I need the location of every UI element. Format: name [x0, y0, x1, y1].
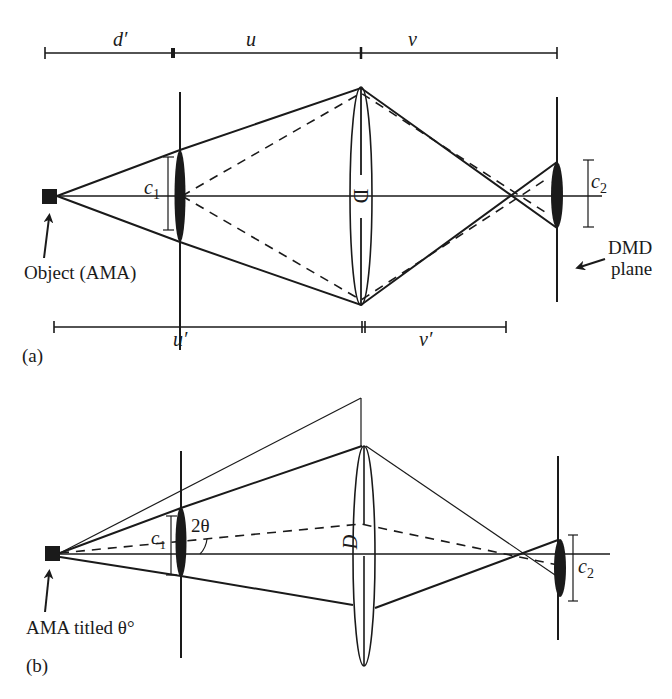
- c2-label-b: c2: [578, 555, 594, 581]
- c1-label: c1: [144, 176, 160, 202]
- dmd-arrow-icon: [580, 259, 605, 267]
- dmd-label-line2: plane: [611, 258, 652, 279]
- object-square: [42, 189, 57, 204]
- v-label: v: [408, 28, 417, 50]
- solid-rays-b: [60, 446, 558, 608]
- ama-tilted-label: AMA titled θ°: [26, 617, 135, 638]
- thin-ray-top: [60, 398, 361, 553]
- c1-bracket-b: [166, 516, 177, 575]
- angle-label: 2θ: [191, 515, 210, 536]
- u-label: u: [246, 28, 256, 50]
- object-square-b: [45, 546, 60, 561]
- main-lens-d-b: [353, 446, 375, 666]
- panel-a: d′ u v c1 D: [22, 28, 652, 367]
- v-prime-label: v′: [419, 328, 433, 350]
- dashed-ray-b: [60, 524, 558, 565]
- ama-arrow-icon: [45, 574, 49, 612]
- panel-b-label: (b): [26, 655, 48, 677]
- dmd-image-spot-b: [554, 539, 566, 597]
- bottom-dimension-line: [54, 321, 506, 333]
- c2-label: c2: [591, 170, 607, 196]
- dmd-image-spot: [551, 162, 563, 228]
- aperture-lens: [175, 150, 186, 242]
- optical-diagram: d′ u v c1 D: [0, 0, 672, 699]
- dmd-label-line1: DMD: [608, 237, 652, 258]
- object-label: Object (AMA): [24, 262, 136, 284]
- lens-d-label: D: [350, 189, 372, 203]
- panel-b: c1 2θ D: [26, 398, 610, 677]
- u-prime-label: u′: [173, 328, 188, 350]
- d-prime-label: d′: [113, 28, 128, 50]
- angle-arc: [200, 539, 207, 554]
- object-arrow-icon: [44, 218, 49, 258]
- c2-bracket-b: [568, 535, 578, 601]
- panel-a-label: (a): [22, 345, 43, 367]
- lens-d-label-b: D: [339, 534, 361, 550]
- c1-label-b: c1: [151, 527, 166, 552]
- c1-bracket: [163, 157, 174, 230]
